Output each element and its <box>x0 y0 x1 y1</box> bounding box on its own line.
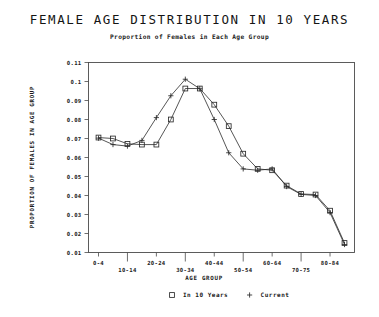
x-tick-label: 40-44 <box>205 260 224 266</box>
chart-plot-area: 0.110.10.090.080.070.060.050.040.030.020… <box>0 0 379 317</box>
series-1 <box>96 86 347 245</box>
x-tick-label: 50-54 <box>234 267 253 273</box>
y-tick-label: 0.03 <box>67 212 82 218</box>
y-tick-label: 0.06 <box>67 155 82 161</box>
x-tick-label: 80-84 <box>321 260 340 266</box>
y-tick-label: 0.01 <box>67 250 82 256</box>
y-tick-label: 0.07 <box>67 136 82 142</box>
y-tick-label: 0.09 <box>67 98 82 104</box>
x-axis-title: AGE GROUP <box>185 275 223 281</box>
x-tick-label: 30-34 <box>176 267 195 273</box>
plot-frame <box>89 63 355 253</box>
legend-label: Current <box>261 291 290 298</box>
data-series-group <box>96 77 347 248</box>
x-tick-label: 70-75 <box>292 267 310 273</box>
y-tick-label: 0.05 <box>67 174 82 180</box>
y-tick-label: 0.04 <box>67 193 82 199</box>
legend-item-1[interactable]: In 10 Years <box>170 291 229 298</box>
chart-page: FEMALE AGE DISTRIBUTION IN 10 YEARS Prop… <box>0 0 379 317</box>
x-tick-label: 0-4 <box>93 260 104 266</box>
y-tick-label: 0.11 <box>67 60 82 66</box>
x-tick-label: 20-24 <box>147 260 166 266</box>
x-tick-label: 10-14 <box>118 267 137 273</box>
y-tick-label: 0.02 <box>67 231 82 237</box>
series-2 <box>96 77 347 248</box>
x-tick-label: 60-64 <box>263 260 282 266</box>
y-axis-title: PROPORTION OF FEMALES IN AGE GROUP <box>29 86 35 228</box>
series-line <box>99 79 345 244</box>
y-tick-label: 0.08 <box>67 117 82 123</box>
legend-marker-square <box>170 293 175 298</box>
legend-label: In 10 Years <box>183 291 228 298</box>
legend-item-2[interactable]: Current <box>247 291 289 298</box>
x-axis-ticks: 0-420-2440-4460-6480-8410-1430-3450-5470… <box>93 253 340 273</box>
y-axis-ticks: 0.110.10.090.080.070.060.050.040.030.020… <box>67 60 89 256</box>
chart-legend: In 10 YearsCurrent <box>170 291 290 298</box>
series-line <box>99 89 345 243</box>
y-tick-label: 0.1 <box>70 79 81 85</box>
